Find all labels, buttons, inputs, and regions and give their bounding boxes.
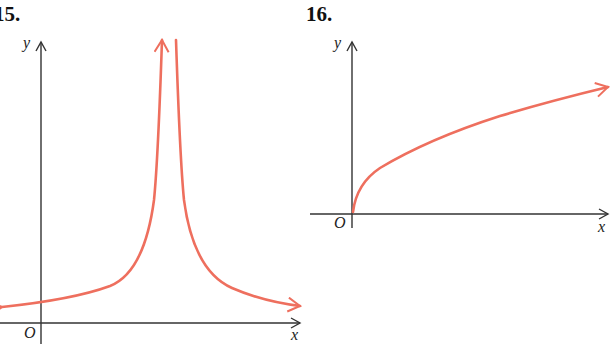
panel-15-left-branch — [2, 40, 162, 307]
panel-15-number: 15. — [0, 2, 20, 27]
panel-16-x-label: x — [598, 218, 605, 236]
panel-15-y-label: y — [23, 34, 30, 52]
panel-16-sqrt-curve — [353, 87, 608, 212]
panel-16-curve — [353, 87, 608, 212]
panel-16-y-label: y — [334, 34, 341, 52]
panel-15-right-branch — [176, 40, 300, 306]
panel-15-axes — [0, 42, 300, 344]
figure-canvas — [0, 0, 614, 344]
panel-16-origin-label: O — [334, 214, 346, 232]
panel-15-curve — [2, 40, 300, 307]
panel-15-x-label: x — [291, 326, 298, 344]
panel-16-number: 16. — [306, 2, 332, 27]
panel-15-origin-label: O — [24, 324, 36, 342]
